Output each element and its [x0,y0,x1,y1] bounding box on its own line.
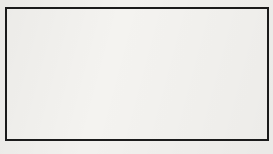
go-board-figure [0,0,273,154]
board-frame [5,7,269,141]
